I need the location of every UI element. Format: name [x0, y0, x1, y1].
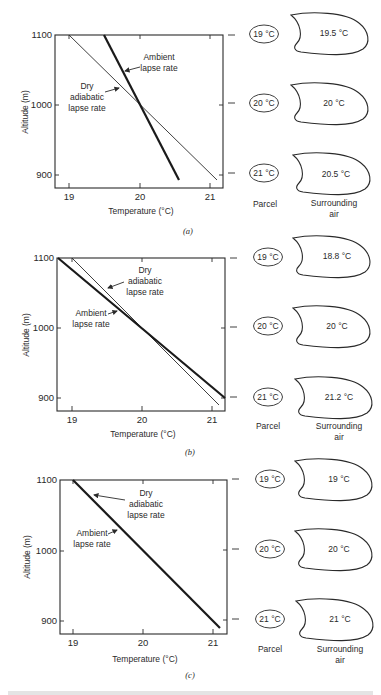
ambient-label: lapse rate	[73, 539, 111, 549]
plot-b: 1100 1000 900 19 20 21 Temperature (°C) …	[21, 252, 237, 439]
surrounding-temp: 20 °C	[328, 544, 349, 554]
parcel-temp: 19 °C	[253, 29, 274, 39]
panel-c: 1100 1000 900 19 20 21 Temperature (°C) …	[22, 459, 373, 680]
surrounding-label: Surrounding	[311, 198, 358, 208]
panel-caption: (c)	[185, 670, 195, 680]
dry-adiabatic-label: adiabatic	[128, 276, 163, 286]
x-tick-21: 21	[208, 637, 219, 648]
ambient-arrow	[108, 311, 117, 314]
ambient-label: lapse rate	[140, 63, 178, 73]
surrounding-temp: 20 °C	[323, 98, 344, 108]
parcel-column-a: 19 °C 20 °C 21 °C Parcel	[250, 25, 279, 209]
ambient-label: Ambient	[75, 308, 107, 318]
panel-caption: (b)	[185, 447, 195, 457]
parcel-column-b: 19 °C 20 °C 21 °C Parcel	[254, 248, 283, 431]
surrounding-temp: 20.5 °C	[322, 169, 350, 179]
surrounding-temp: 18.8 °C	[323, 251, 351, 261]
x-axis-title: Temperature (°C)	[112, 654, 177, 664]
parcel-temp: 21 °C	[253, 168, 274, 178]
dry-adiabatic-arrow	[108, 282, 124, 288]
panel-b: 1100 1000 900 19 20 21 Temperature (°C) …	[21, 236, 372, 457]
parcel-temp: 21 °C	[257, 392, 278, 402]
plot-c: 1100 1000 900 19 20 21 Temperature (°C) …	[22, 474, 239, 664]
y-tick-900: 900	[36, 169, 52, 180]
dry-adiabatic-arrow	[94, 495, 125, 500]
parcel-temp: 19 °C	[257, 252, 278, 262]
surrounding-label: Surrounding	[317, 644, 364, 654]
x-axis-title: Temperature (°C)	[110, 429, 175, 439]
x-tick-20: 20	[138, 637, 149, 648]
y-tick-1100: 1100	[32, 29, 52, 40]
surrounding-label: air	[334, 432, 344, 442]
x-tick-20: 20	[135, 191, 146, 202]
plot-a: 1100 1000 900 19 20 21 Temperature (°C) …	[20, 29, 235, 216]
y-axis-title: Altitude (m)	[22, 535, 32, 579]
surrounding-column-c: 19 °C 20 °C 21 °C Surrounding air	[295, 459, 373, 665]
dry-adiabatic-label: lapse rate	[127, 510, 165, 520]
cut-off-caption	[8, 691, 373, 695]
ambient-label: Ambient	[143, 52, 175, 62]
y-tick-1000: 1000	[31, 99, 52, 110]
panel-caption: (a)	[183, 226, 193, 236]
surrounding-column-a: 19.5 °C 20 °C 20.5 °C Surrounding air	[291, 13, 370, 219]
surrounding-label: air	[329, 209, 339, 219]
dry-adiabatic-label: adiabatic	[129, 499, 164, 509]
y-axis-title: Altitude (m)	[21, 313, 31, 357]
y-tick-1100: 1100	[37, 474, 57, 485]
surrounding-label: Surrounding	[316, 421, 363, 431]
parcel-label: Parcel	[258, 644, 282, 654]
ambient-arrow	[125, 67, 140, 71]
dry-adiabatic-label: Dry	[80, 81, 94, 91]
x-tick-19: 19	[68, 637, 79, 648]
parcel-temp: 20 °C	[257, 321, 278, 331]
parcel-column-c: 19 °C 20 °C 21 °C Parcel	[256, 470, 285, 654]
parcel-temp: 21 °C	[259, 614, 280, 624]
ambient-label: Ambient	[76, 528, 108, 538]
dry-adiabatic-label: lapse rate	[68, 103, 106, 113]
y-tick-1000: 1000	[36, 545, 57, 556]
parcel-temp: 19 °C	[259, 474, 280, 484]
surrounding-temp: 21 °C	[329, 614, 350, 624]
parcel-temp: 20 °C	[259, 544, 280, 554]
dry-adiabatic-label: Dry	[139, 488, 153, 498]
parcel-label: Parcel	[256, 421, 280, 431]
surrounding-temp: 21.2 °C	[325, 392, 353, 402]
x-axis-title: Temperature (°C)	[108, 206, 173, 216]
x-tick-21: 21	[207, 414, 218, 425]
x-tick-20: 20	[137, 414, 148, 425]
surrounding-temp: 19 °C	[328, 474, 349, 484]
surrounding-temp: 20 °C	[326, 321, 347, 331]
surrounding-label: air	[335, 655, 345, 665]
x-tick-21: 21	[205, 191, 216, 202]
y-tick-900: 900	[41, 615, 57, 626]
lapse-rate-figure: 1100 1000 900 19 20 21 Temperature (°C) …	[0, 0, 381, 695]
surrounding-temp: 19.5 °C	[320, 28, 348, 38]
x-tick-19: 19	[64, 191, 75, 202]
parcel-temp: 20 °C	[253, 98, 274, 108]
y-axis-title: Altitude (m)	[20, 90, 30, 134]
y-tick-1100: 1100	[34, 252, 54, 263]
parcel-label: Parcel	[253, 199, 277, 209]
surrounding-column-b: 18.8 °C 20 °C 21.2 °C Surrounding air	[293, 236, 372, 442]
y-tick-900: 900	[38, 392, 54, 403]
x-tick-19: 19	[67, 414, 78, 425]
y-tick-1000: 1000	[33, 322, 54, 333]
panel-a: 1100 1000 900 19 20 21 Temperature (°C) …	[20, 13, 370, 236]
ambient-arrow	[108, 530, 117, 534]
dry-adiabatic-arrow	[105, 88, 119, 92]
dry-adiabatic-label: Dry	[138, 265, 152, 275]
dry-adiabatic-label: adiabatic	[70, 92, 105, 102]
dry-adiabatic-label: lapse rate	[126, 287, 164, 297]
ambient-label: lapse rate	[72, 319, 110, 329]
